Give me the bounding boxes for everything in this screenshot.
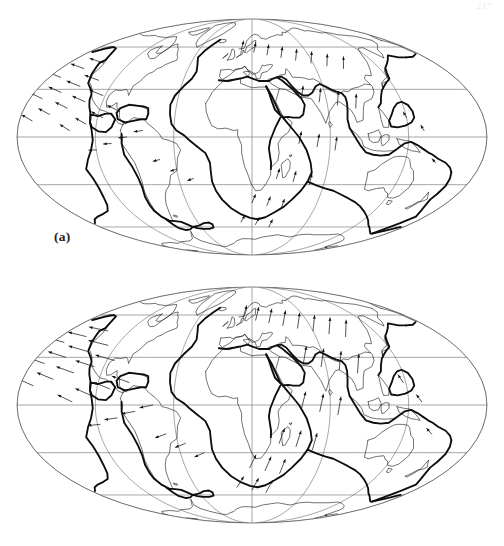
velocity-vector — [295, 49, 298, 60]
velocity-vector — [49, 73, 60, 78]
plate-boundary-segment — [121, 402, 192, 498]
vector-arrowhead — [280, 47, 283, 50]
coastline-segment — [368, 130, 381, 143]
coastline-segment — [237, 50, 244, 57]
velocity-vector — [269, 309, 273, 323]
vector-arrowhead — [89, 326, 92, 329]
plate-boundary-segment — [193, 491, 214, 497]
graticule-group — [17, 20, 487, 255]
vector-arrowhead — [317, 134, 320, 137]
vector-shaft — [49, 73, 60, 78]
vector-arrowhead — [322, 349, 325, 352]
vector-arrowhead — [18, 379, 22, 382]
velocity-vector — [241, 215, 245, 221]
velocity-vector — [280, 47, 283, 57]
vector-arrowhead — [71, 64, 75, 67]
velocity-vector — [122, 411, 135, 414]
vector-arrowhead — [170, 169, 174, 172]
vector-arrowhead — [153, 159, 156, 162]
plate-boundary-segment — [372, 440, 451, 501]
vector-arrowhead — [326, 54, 329, 57]
velocity-vector — [60, 125, 70, 131]
plate-boundary-segment — [308, 182, 371, 234]
velocity-vector — [313, 315, 316, 331]
velocity-vector-group — [22, 41, 436, 227]
velocity-vector — [310, 52, 313, 63]
plate-boundary-segment — [266, 77, 305, 117]
coastline-segment — [386, 468, 392, 472]
coastline-segment — [206, 347, 292, 459]
vector-arrowhead — [134, 130, 137, 133]
coastline-segment — [329, 122, 333, 128]
velocity-vector — [432, 159, 435, 163]
plate-boundary-segment — [269, 386, 280, 437]
vector-arrowhead — [188, 178, 192, 181]
plate-boundary-segment — [90, 114, 115, 133]
vector-arrowhead — [339, 397, 342, 400]
velocity-vector — [140, 405, 153, 409]
velocity-vector — [76, 118, 86, 124]
vector-arrowhead — [105, 418, 108, 421]
vector-arrowhead — [282, 199, 285, 203]
vector-arrowhead — [76, 360, 80, 363]
vector-arrowhead — [303, 392, 306, 395]
coastline-segment — [289, 423, 292, 425]
velocity-vector — [37, 373, 53, 380]
vector-arrowhead — [398, 375, 401, 379]
vector-arrowhead — [283, 311, 286, 314]
velocity-vector — [153, 159, 160, 162]
velocity-vector — [276, 169, 280, 179]
coastline-segment — [206, 79, 292, 191]
velocity-vector — [57, 366, 74, 372]
velocity-vector — [416, 395, 421, 402]
velocity-vector — [188, 178, 194, 181]
vector-arrowhead — [57, 366, 61, 369]
vector-arrowhead — [241, 41, 244, 44]
vector-arrowhead — [49, 351, 53, 354]
plate-boundary-segment — [350, 128, 452, 172]
velocity-vector — [73, 96, 85, 102]
velocity-vector — [170, 169, 176, 172]
velocity-vector — [355, 94, 358, 108]
velocity-vector — [328, 318, 331, 334]
map-panel-b: (b) — [0, 268, 504, 546]
plate-boundary-segment — [372, 172, 451, 233]
velocity-vector — [67, 81, 80, 86]
velocity-vector — [267, 45, 270, 55]
velocity-vector — [49, 87, 61, 92]
coastline-segment — [189, 28, 210, 36]
velocity-vector — [76, 389, 91, 396]
velocity-vector — [319, 89, 322, 102]
coastline-segment — [329, 390, 333, 396]
velocity-vector — [267, 197, 271, 206]
plate-boundary-segment — [269, 118, 280, 169]
vector-arrowhead — [301, 86, 304, 89]
coastline-segment — [368, 398, 381, 411]
velocity-vector — [301, 86, 304, 98]
velocity-vector — [56, 102, 68, 108]
coastline-segment — [237, 318, 244, 325]
velocity-vector — [283, 311, 286, 326]
vector-arrowhead — [155, 435, 159, 438]
vector-shaft — [31, 93, 42, 99]
plate-boundary-segment — [90, 382, 115, 401]
velocity-vector — [195, 453, 205, 457]
velocity-vector — [58, 395, 72, 402]
velocity-vector — [345, 320, 348, 336]
figure-page: 217 (a) (b) — [0, 0, 504, 546]
velocity-vector — [269, 220, 273, 227]
velocity-vector-group — [18, 306, 432, 493]
velocity-vector — [155, 434, 166, 438]
vector-arrowhead — [328, 318, 331, 321]
velocity-vector — [252, 194, 256, 202]
vector-arrowhead — [28, 357, 32, 360]
coastline-segment — [174, 483, 178, 485]
coastline-segment — [381, 135, 389, 146]
panel-label-a: (a) — [54, 229, 70, 245]
velocity-vector — [134, 130, 142, 133]
velocity-vector — [49, 351, 66, 357]
world-map-a — [0, 0, 504, 272]
velocity-vector — [317, 134, 320, 146]
vector-arrowhead — [90, 58, 94, 61]
plate-boundary-segment — [389, 102, 414, 128]
